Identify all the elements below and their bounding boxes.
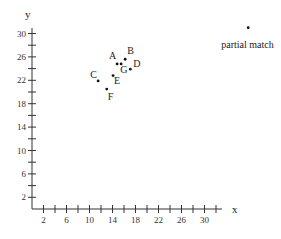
axes: 2610141822263026101418222630xy: [17, 8, 238, 225]
x-axis-label: x: [232, 203, 238, 215]
y-tick-label: 26: [17, 52, 27, 62]
point-label: D: [133, 58, 140, 69]
data-point: [247, 26, 250, 29]
data-point: [124, 58, 127, 61]
point-label: B: [127, 45, 134, 56]
x-tick-label: 14: [108, 215, 118, 225]
data-points: ABGDECFpartial match: [90, 26, 274, 102]
point-label: A: [109, 50, 117, 61]
point-label: F: [108, 91, 114, 102]
y-tick-label: 30: [17, 29, 27, 39]
x-tick-label: 10: [85, 215, 95, 225]
x-tick-label: 22: [154, 215, 163, 225]
y-tick-label: 10: [17, 146, 27, 156]
x-tick-label: 2: [41, 215, 46, 225]
point-label: E: [114, 75, 120, 86]
x-tick-label: 26: [177, 215, 187, 225]
point-label: partial match: [221, 39, 273, 50]
point-label: G: [120, 64, 127, 75]
x-tick-label: 30: [200, 215, 210, 225]
x-tick-label: 18: [131, 215, 141, 225]
y-tick-label: 22: [17, 75, 26, 85]
y-axis-label: y: [25, 8, 31, 20]
data-point: [105, 88, 108, 91]
x-tick-label: 6: [64, 215, 69, 225]
point-label: C: [90, 69, 97, 80]
y-tick-label: 2: [22, 192, 27, 202]
scatter-chart: 2610141822263026101418222630xy ABGDECFpa…: [0, 0, 281, 239]
data-point: [97, 79, 100, 82]
y-tick-label: 18: [17, 99, 27, 109]
y-tick-label: 6: [22, 169, 27, 179]
data-point: [129, 68, 132, 71]
y-tick-label: 14: [17, 122, 27, 132]
data-point: [116, 63, 119, 66]
